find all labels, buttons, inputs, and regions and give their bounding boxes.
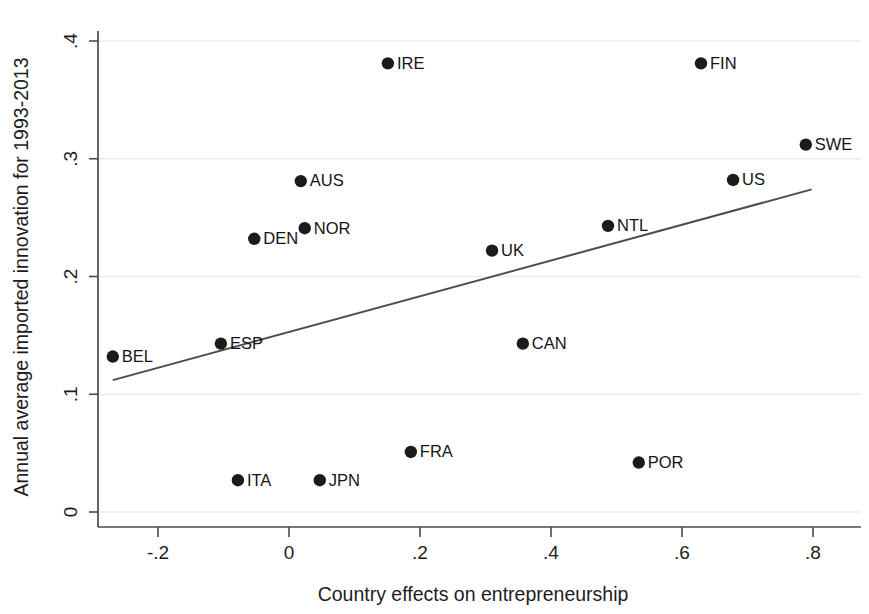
data-point-label: ESP xyxy=(230,334,263,352)
data-point-label: BEL xyxy=(122,347,153,365)
data-point: UK xyxy=(486,241,524,259)
data-point-marker xyxy=(405,446,417,458)
data-point-marker xyxy=(314,474,326,486)
gridlines-group xyxy=(98,41,861,512)
y-tick-label: .4 xyxy=(60,33,81,49)
data-points-group: BELESPDENITAAUSNORJPNIREFRAUKCANNTLPORFI… xyxy=(107,54,853,489)
y-tick-label: .1 xyxy=(60,386,81,402)
data-point: BEL xyxy=(107,347,153,365)
x-axis-title: Country effects on entrepreneurship xyxy=(318,583,629,605)
data-point-marker xyxy=(248,233,260,245)
data-point-marker xyxy=(633,456,645,468)
data-point-label: FIN xyxy=(710,54,737,72)
data-point-marker xyxy=(295,175,307,187)
data-point-label: ITA xyxy=(247,471,271,489)
data-point-marker xyxy=(602,220,614,232)
data-point-marker xyxy=(299,222,311,234)
data-point-label: JPN xyxy=(329,471,360,489)
data-point: ITA xyxy=(232,471,272,489)
y-tick-label: 0 xyxy=(60,507,81,518)
data-point: ESP xyxy=(215,334,263,352)
x-tick-label: .2 xyxy=(412,542,428,563)
x-tick-label: .8 xyxy=(805,542,821,563)
data-point-label: US xyxy=(742,170,765,188)
data-point: IRE xyxy=(382,54,425,72)
data-point-label: SWE xyxy=(815,135,853,153)
data-point-label: CAN xyxy=(532,334,567,352)
data-point: JPN xyxy=(314,471,360,489)
data-point-label: POR xyxy=(648,453,684,471)
data-point-marker xyxy=(107,350,119,362)
data-point-marker xyxy=(800,138,812,150)
y-tick-label: .2 xyxy=(60,269,81,285)
data-point-marker xyxy=(215,337,227,349)
data-point: NOR xyxy=(299,219,351,237)
data-point: FRA xyxy=(405,442,453,460)
tickmarks-group xyxy=(89,41,813,537)
regression-line-group xyxy=(113,189,812,380)
data-point: AUS xyxy=(295,171,344,189)
x-tick-label: .4 xyxy=(543,542,559,563)
data-point-label: UK xyxy=(501,241,524,259)
data-point-marker xyxy=(486,244,498,256)
data-point-marker xyxy=(727,174,739,186)
data-point: FIN xyxy=(695,54,737,72)
data-point: POR xyxy=(633,453,684,471)
data-point: CAN xyxy=(517,334,567,352)
data-point-label: NTL xyxy=(617,216,648,234)
data-point-marker xyxy=(517,337,529,349)
scatter-plot-figure: -.20.2.4.6.8 0.1.2.3.4 BELESPDENITAAUSNO… xyxy=(0,0,869,614)
x-tick-label: 0 xyxy=(284,542,295,563)
x-tick-label: -.2 xyxy=(147,542,169,563)
data-point-marker xyxy=(695,57,707,69)
data-point-marker xyxy=(232,474,244,486)
data-point-label: DEN xyxy=(263,229,298,247)
data-point: DEN xyxy=(248,229,298,247)
data-point-label: IRE xyxy=(397,54,425,72)
x-tick-labels-group: -.20.2.4.6.8 xyxy=(147,542,821,563)
y-axis-title: Annual average imported innovation for 1… xyxy=(10,57,32,496)
data-point: US xyxy=(727,170,765,188)
regression-line xyxy=(113,189,812,380)
x-tick-label: .6 xyxy=(674,542,690,563)
data-point: NTL xyxy=(602,216,648,234)
data-point-label: AUS xyxy=(310,171,344,189)
data-point: SWE xyxy=(800,135,853,153)
data-point-marker xyxy=(382,57,394,69)
y-tick-labels-group: 0.1.2.3.4 xyxy=(60,33,81,518)
y-tick-label: .3 xyxy=(60,151,81,167)
data-point-label: FRA xyxy=(420,442,453,460)
chart-canvas: -.20.2.4.6.8 0.1.2.3.4 BELESPDENITAAUSNO… xyxy=(0,0,869,614)
data-point-label: NOR xyxy=(314,219,351,237)
